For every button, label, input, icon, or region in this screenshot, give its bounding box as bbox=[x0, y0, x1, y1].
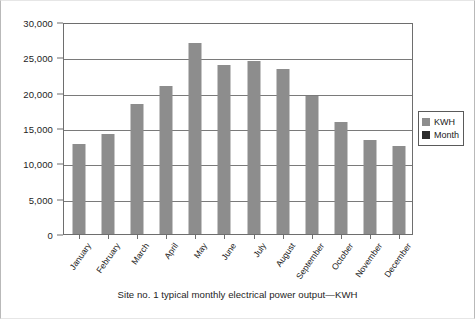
bar-slot bbox=[152, 24, 181, 234]
y-axis-tick-label: 10,000 bbox=[23, 159, 53, 170]
legend-entry[interactable]: KWH bbox=[422, 116, 459, 128]
x-axis-label: August bbox=[273, 241, 297, 269]
y-axis-tick-label: 20,000 bbox=[23, 88, 53, 99]
x-axis-label: March bbox=[129, 241, 151, 266]
bar-slot bbox=[210, 24, 239, 234]
x-axis-label: January bbox=[67, 241, 93, 272]
x-axis-label: October bbox=[330, 241, 356, 272]
bar bbox=[393, 146, 406, 234]
plot-area bbox=[63, 23, 413, 235]
chart-figure: 30,00025,00020,00015,00010,0005,0000 Jan… bbox=[0, 0, 475, 319]
legend-entry[interactable]: Month bbox=[422, 129, 459, 141]
bar-slot bbox=[385, 24, 414, 234]
bar bbox=[189, 43, 202, 234]
bar bbox=[247, 61, 260, 234]
x-axis-tick-mark bbox=[195, 234, 196, 239]
bar-slot bbox=[181, 24, 210, 234]
x-axis-tick-mark bbox=[341, 234, 342, 239]
y-axis-tick-label: 25,000 bbox=[23, 53, 53, 64]
bar bbox=[218, 65, 231, 234]
bar-slot bbox=[356, 24, 385, 234]
x-axis-tick-mark bbox=[370, 234, 371, 239]
x-axis-label: November bbox=[354, 241, 385, 279]
x-axis-tick-mark bbox=[108, 234, 109, 239]
y-axis-tick-label: 5,000 bbox=[29, 194, 53, 205]
bar-slot bbox=[268, 24, 297, 234]
bar-slot bbox=[239, 24, 268, 234]
legend-swatch-icon bbox=[422, 131, 430, 139]
x-axis-tick-mark bbox=[166, 234, 167, 239]
chart-caption: Site no. 1 typical monthly electrical po… bbox=[1, 289, 474, 300]
x-axis-label: May bbox=[192, 241, 210, 260]
x-axis-label: July bbox=[251, 241, 268, 259]
legend-label: Month bbox=[434, 131, 459, 140]
bar bbox=[305, 96, 318, 235]
bar bbox=[160, 86, 173, 234]
bar-slot bbox=[93, 24, 122, 234]
bar bbox=[130, 104, 143, 234]
x-axis-tick-mark bbox=[224, 234, 225, 239]
legend-label: KWH bbox=[434, 118, 455, 127]
x-axis-tick-mark bbox=[254, 234, 255, 239]
x-axis-tick-mark bbox=[137, 234, 138, 239]
y-axis-tick-label: 15,000 bbox=[23, 124, 53, 135]
y-axis: 30,00025,00020,00015,00010,0005,0000 bbox=[1, 23, 63, 235]
bar bbox=[276, 69, 289, 234]
bar bbox=[364, 140, 377, 234]
bar-slot bbox=[122, 24, 151, 234]
bar bbox=[72, 144, 85, 234]
bar-series-kwh bbox=[64, 24, 412, 234]
legend-swatch-icon bbox=[422, 118, 430, 126]
x-axis-tick-mark bbox=[283, 234, 284, 239]
x-axis-label: September bbox=[294, 241, 326, 281]
y-axis-tick-label: 0 bbox=[48, 230, 53, 241]
bar-slot bbox=[297, 24, 326, 234]
chart-legend: KWHMonth bbox=[418, 111, 464, 146]
bar-slot bbox=[64, 24, 93, 234]
bar bbox=[101, 134, 114, 234]
x-axis-label: February bbox=[94, 241, 122, 275]
bar-slot bbox=[327, 24, 356, 234]
x-axis-label: December bbox=[383, 241, 414, 279]
x-axis-labels: JanuaryFebruaryMarchAprilMayJuneJulyAugu… bbox=[63, 241, 413, 287]
x-axis-tick-mark bbox=[312, 234, 313, 239]
x-axis-tick-mark bbox=[79, 234, 80, 239]
x-axis-tick-mark bbox=[399, 234, 400, 239]
x-axis-label: June bbox=[220, 241, 239, 262]
y-axis-tick-label: 30,000 bbox=[23, 18, 53, 29]
x-axis-label: April bbox=[162, 241, 180, 261]
bar bbox=[335, 122, 348, 234]
